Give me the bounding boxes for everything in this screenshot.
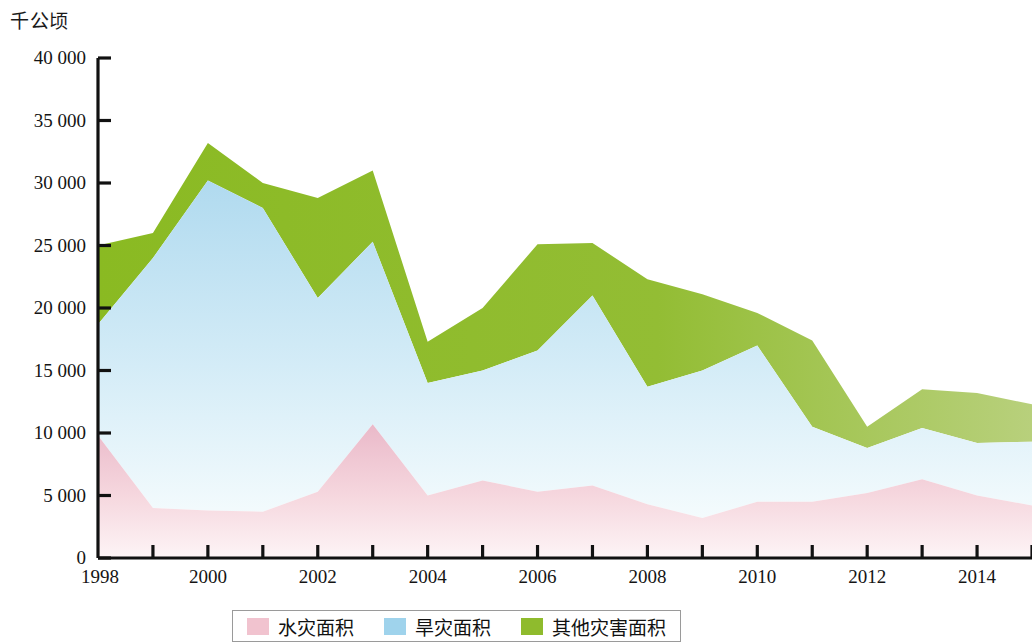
x-axis-tick-label: 2004: [409, 566, 447, 588]
legend-color-swatch: [247, 618, 269, 635]
disaster-area-stacked-chart: 千公顷: [0, 0, 1032, 644]
y-axis-tick-label: 5 000: [0, 485, 96, 507]
legend-color-swatch: [384, 618, 406, 635]
stacked-area-layer: [98, 143, 1032, 558]
y-axis-tick-label: 30 000: [0, 172, 96, 194]
legend-item: 水灾面积: [247, 613, 354, 640]
x-axis-tick-label: 2000: [189, 566, 227, 588]
legend-item: 旱灾面积: [384, 613, 491, 640]
legend-label: 旱灾面积: [415, 613, 491, 640]
x-axis-tick-label: 2006: [519, 566, 557, 588]
y-axis-tick-label: 20 000: [0, 297, 96, 319]
y-axis-tick-label: 15 000: [0, 360, 96, 382]
x-axis-tick-label: 2008: [628, 566, 666, 588]
legend-item: 其他灾害面积: [521, 613, 666, 640]
x-axis-tick-label: 2012: [848, 566, 886, 588]
y-axis-tick-label: 35 000: [0, 110, 96, 132]
y-axis-tick-label: 10 000: [0, 422, 96, 444]
legend-color-swatch: [521, 618, 543, 635]
x-axis-tick-label: 2002: [299, 566, 337, 588]
legend-label: 水灾面积: [278, 613, 354, 640]
legend-label: 其他灾害面积: [552, 613, 666, 640]
chart-legend: 水灾面积旱灾面积其他灾害面积: [232, 610, 681, 642]
x-axis-tick-label: 2010: [738, 566, 776, 588]
area-series-drought: [98, 181, 1032, 519]
y-axis-tick-label: 40 000: [0, 47, 96, 69]
chart-plot-area: [0, 0, 1032, 644]
y-axis-tick-label: 25 000: [0, 235, 96, 257]
x-axis-tick-label: 2014: [958, 566, 996, 588]
x-axis-tick-label: 1998: [81, 566, 119, 588]
